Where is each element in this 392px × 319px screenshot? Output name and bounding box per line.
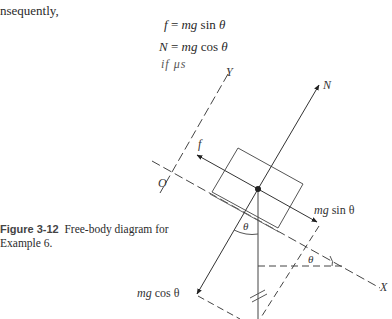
mg-sin-arrow	[258, 189, 317, 222]
y-axis-line	[160, 74, 228, 193]
mg-cos-arrow	[197, 189, 258, 294]
label-Y: Y	[226, 65, 233, 80]
label-theta-1: θ	[243, 220, 248, 232]
label-mg-sin: mg sin θ	[314, 203, 354, 218]
label-X: X	[380, 280, 387, 295]
label-N: N	[323, 78, 331, 93]
label-f: f	[198, 137, 201, 152]
normal-force-arrow	[258, 85, 319, 189]
center-of-mass-dot	[255, 186, 261, 192]
friction-force-arrow	[197, 155, 258, 189]
label-O: O	[158, 176, 167, 191]
free-body-diagram	[0, 0, 392, 319]
label-theta-2: θ	[308, 253, 313, 265]
label-mg-cos: mg cos θ	[137, 286, 179, 301]
